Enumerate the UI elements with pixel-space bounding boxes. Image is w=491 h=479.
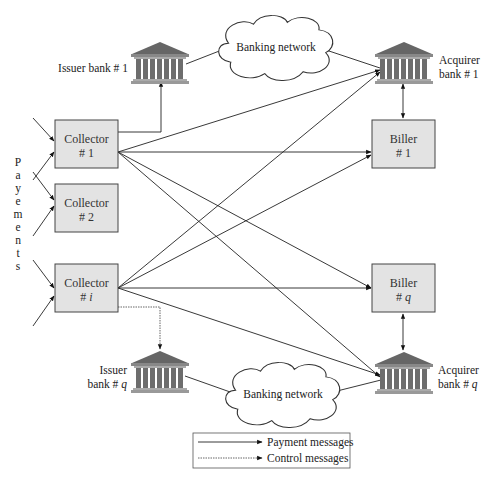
incoming-payment-arrow (33, 172, 54, 200)
biller-1-number: # 1 (396, 146, 411, 160)
incoming-payment-arrow (33, 296, 54, 326)
payments-letter: n (15, 234, 21, 246)
payments-label: Payements (14, 156, 23, 272)
payments-letter: y (15, 182, 21, 195)
acquirer-bank-1-label-line1: Acquirer (439, 54, 480, 67)
bank-icon (131, 42, 189, 84)
collector-2-label: Collector (64, 196, 109, 210)
svg-text:Payements: Payements (14, 156, 23, 272)
payments-letter: t (16, 247, 20, 259)
bank-icon (375, 42, 433, 84)
acquirer-bank-q-label-line1: Acquirer (438, 364, 479, 377)
biller-1-label: Biller (390, 132, 417, 146)
issuer-bank-q-label-line1: Issuer (100, 364, 128, 376)
collector-2-number: # 2 (79, 210, 94, 224)
biller-q: Biller # q (372, 264, 435, 312)
acquirer-bank-1: Acquirer bank # 1 (375, 42, 480, 84)
payments-letter: m (14, 208, 23, 220)
edge-collectori-acquirer1 (118, 72, 380, 288)
biller-1: Biller # 1 (372, 120, 435, 168)
collector-1-number: # 1 (79, 146, 94, 160)
issuer-bank-q-label-line2: bank # q (87, 378, 127, 391)
bank-icon (131, 351, 189, 393)
legend: Payment messages Control messages (193, 433, 354, 468)
edge-network-acquirer1 (326, 50, 380, 68)
incoming-payments (33, 118, 54, 326)
incoming-payment-arrow (33, 206, 54, 236)
payments-letter: s (16, 260, 21, 272)
payments-letter: e (15, 221, 20, 233)
legend-control-label: Control messages (267, 452, 349, 465)
banking-network-bottom-label: Banking network (243, 388, 323, 401)
edges (118, 48, 403, 393)
edge-collector1-issuer1 (118, 82, 161, 132)
collector-1: Collector # 1 (55, 120, 118, 168)
acquirer-bank-q: Acquirer bank # q (375, 352, 479, 394)
collector-2: Collector # 2 (55, 184, 118, 232)
acquirer-bank-1-label-line2: bank # 1 (439, 68, 479, 80)
bank-icon (375, 352, 433, 394)
collector-1-label: Collector (64, 132, 109, 146)
collector-i-label: Collector (64, 276, 109, 290)
issuer-bank-1-label: Issuer bank # 1 (58, 62, 128, 74)
edge-collectori-issuerq-control (118, 307, 160, 349)
payments-letter: e (15, 195, 20, 207)
collector-i-number: # i (80, 290, 92, 304)
payments-letter: P (15, 156, 21, 168)
acquirer-bank-q-label-line2: bank # q (438, 378, 478, 391)
payments-letter: a (15, 169, 20, 181)
edge-collector1-acquirerq (118, 152, 380, 377)
edge-issuerq-network (185, 376, 233, 393)
issuer-bank-1: Issuer bank # 1 (58, 42, 189, 84)
banking-network-top-label: Banking network (236, 41, 316, 54)
issuer-bank-q: Issuer bank # q (87, 351, 189, 393)
collector-i: Collector # i (55, 264, 118, 312)
biller-q-label: Biller (390, 276, 417, 290)
payment-network-diagram: Payements Banking network Banki (0, 0, 491, 479)
incoming-payment-arrow (33, 260, 54, 288)
incoming-payment-arrow (33, 118, 54, 141)
biller-q-number: # q (396, 290, 411, 304)
legend-payment-label: Payment messages (267, 436, 354, 449)
